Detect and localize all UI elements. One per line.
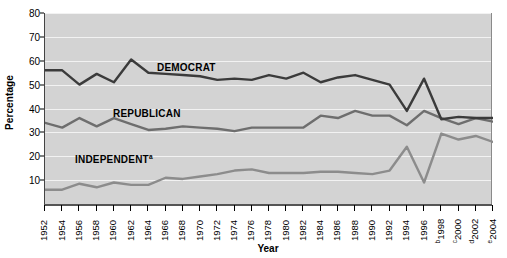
y-axis-tick-label: 40 (29, 103, 40, 114)
y-axis-title: Percentage (0, 0, 18, 204)
series-label-independent: INDEPENDENTa (75, 153, 153, 165)
series-label-independent-text: INDEPENDENT (75, 154, 149, 165)
y-axis-tick-label: 70 (29, 31, 40, 42)
series-label-democrat-text: DEMOCRAT (157, 62, 216, 73)
series-label-republican-text: REPUBLICAN (113, 108, 181, 119)
plot-area (44, 13, 492, 204)
y-axis-tick-label: 30 (29, 127, 40, 138)
y-axis-tick-label: 20 (29, 151, 40, 162)
y-axis-title-label: Percentage (4, 75, 15, 130)
y-axis-tick-labels: 1020304050607080 (18, 0, 44, 208)
series-label-democrat: DEMOCRAT (157, 62, 216, 73)
series-label-independent-superscript: a (149, 153, 153, 160)
y-axis-tick-label: 60 (29, 55, 40, 66)
x-axis-title: Year (44, 243, 492, 254)
line-chart: Percentage 1020304050607080 DEMOCRAT REP… (0, 0, 507, 258)
x-axis-title-label: Year (257, 243, 278, 254)
series-label-republican: REPUBLICAN (113, 108, 181, 119)
y-axis-tick-label: 80 (29, 8, 40, 19)
y-axis-tick-label: 50 (29, 79, 40, 90)
y-axis-tick-label: 10 (29, 175, 40, 186)
